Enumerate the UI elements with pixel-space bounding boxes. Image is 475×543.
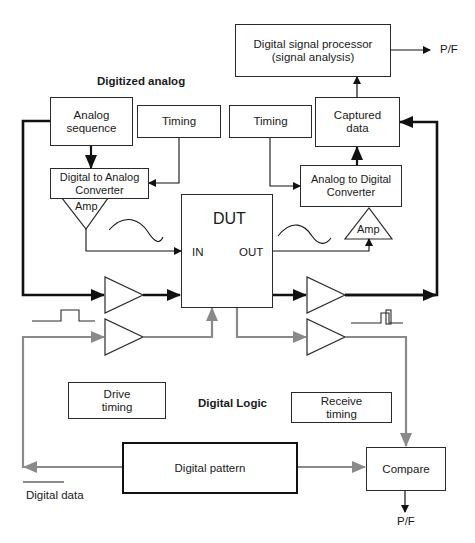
- dsp-label-1: Digital signal processor: [254, 38, 373, 51]
- timing-left-label: Timing: [162, 115, 196, 128]
- adc-label-2: Converter: [311, 186, 391, 199]
- adc-amp-label: Amp: [357, 223, 380, 235]
- digital-driver-to-dut-line: [143, 308, 212, 337]
- receive-pulse-icon: [351, 313, 403, 323]
- amp-to-dut-in-line: [86, 229, 181, 251]
- captured-data-label-2: data: [334, 122, 381, 135]
- digital-pattern-label: Digital pattern: [175, 462, 246, 475]
- dsp-pf-label: P/F: [440, 43, 458, 55]
- compare-pf-label: P/F: [397, 515, 415, 527]
- dut-block: DUT IN OUT: [181, 194, 273, 308]
- analog-sequence-block: Analog sequence: [50, 97, 133, 146]
- dac-label-1: Digital to Analog: [60, 171, 140, 184]
- receive-timing-label-1: Receive: [321, 395, 363, 408]
- dut-out-label: OUT: [239, 246, 263, 259]
- adc-block: Analog to Digital Converter: [300, 165, 402, 207]
- timing-to-adc-line: [270, 137, 300, 186]
- compare-block: Compare: [366, 447, 446, 491]
- timing-right-label: Timing: [253, 115, 287, 128]
- analog-receiver-triangle: [307, 277, 345, 313]
- digitized-analog-title: Digitized analog: [97, 75, 185, 87]
- dac-block: Digital to Analog Converter: [50, 168, 149, 199]
- analog-sequence-label-2: sequence: [67, 122, 117, 135]
- drive-timing-block: Drive timing: [68, 382, 166, 419]
- receive-timing-block: Receive timing: [291, 392, 392, 423]
- analog-receive-path: [345, 122, 437, 295]
- drive-timing-label-2: timing: [102, 401, 133, 414]
- dac-amp-label: Amp: [75, 200, 98, 212]
- drive-pulse-icon: [32, 310, 95, 321]
- dut-out-to-amp-line: [272, 239, 369, 251]
- analog-driver-triangle: [105, 277, 143, 313]
- digital-driver-triangle: [105, 319, 143, 355]
- captured-data-block: Captured data: [315, 97, 400, 147]
- dut-to-digital-receiver-line: [237, 307, 306, 337]
- timing-to-dac-line: [149, 137, 179, 183]
- analog-sequence-label-1: Analog: [67, 109, 117, 122]
- digital-data-legend-label: Digital data: [26, 489, 84, 501]
- digital-logic-title: Digital Logic: [198, 397, 267, 409]
- digital-pattern-block: Digital pattern: [122, 442, 298, 494]
- digital-receiver-triangle: [307, 319, 345, 355]
- analog-wave-out: [278, 225, 331, 243]
- captured-data-label-1: Captured: [334, 109, 381, 122]
- dac-label-2: Converter: [60, 184, 140, 197]
- analog-wave-in: [109, 219, 163, 241]
- timing-right-block: Timing: [229, 105, 312, 138]
- dsp-label-2: (signal analysis): [254, 51, 373, 64]
- dut-in-label: IN: [192, 246, 204, 259]
- compare-label: Compare: [382, 463, 429, 476]
- dsp-block: Digital signal processor (signal analysi…: [235, 24, 391, 77]
- dut-title: DUT: [213, 212, 246, 225]
- drive-timing-label-1: Drive: [102, 388, 133, 401]
- timing-left-block: Timing: [137, 105, 221, 138]
- receive-timing-label-2: timing: [321, 408, 363, 421]
- adc-label-1: Analog to Digital: [311, 173, 391, 186]
